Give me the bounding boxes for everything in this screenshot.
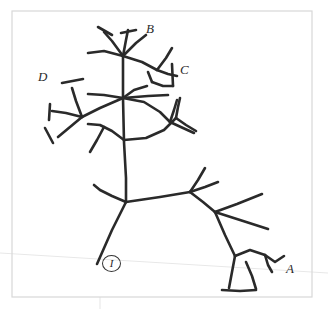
drawing-svg <box>0 0 328 309</box>
stroke-foot-base <box>222 290 256 291</box>
sketch-canvas: BCDAI <box>0 0 328 309</box>
stroke-c-branch-cap <box>172 64 173 86</box>
stroke-d-node-cap-left <box>49 104 50 120</box>
